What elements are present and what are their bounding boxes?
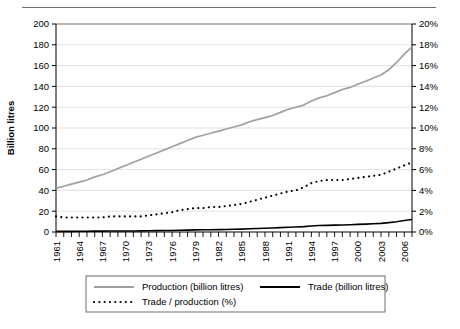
y-tick-label-right: 10% [419,122,439,133]
x-tick-label: 1988 [260,241,271,262]
x-tick-label: 1964 [74,241,85,262]
y-tick-label-right: 8% [419,143,433,154]
y-tick-label-left: 180 [33,39,49,50]
y-tick-label-right: 12% [419,102,439,113]
x-tick-label: 2003 [376,241,387,262]
y-tick-label-left: 100 [33,122,49,133]
legend-label-3: Trade / production (%) [142,296,236,307]
y-tick-label-right: 4% [419,185,433,196]
x-tick-label: 2006 [399,241,410,262]
x-tick-label: 1997 [329,241,340,262]
y-tick-label-right: 20% [419,18,439,29]
y-tick-label-right: 0% [419,226,433,237]
chart-container: 0204060801001201401601802000%2%4%6%8%10%… [0,0,460,329]
y-tick-label-right: 16% [419,60,439,71]
x-tick-label: 1991 [283,241,294,262]
y-tick-label-right: 18% [419,39,439,50]
series-line-1 [56,47,412,188]
x-tick-label: 1985 [236,241,247,262]
y-tick-label-right: 2% [419,206,433,217]
x-tick-label: 1967 [97,241,108,262]
y-tick-label-left: 140 [33,81,49,92]
y-tick-label-right: 6% [419,164,433,175]
y-tick-label-left: 60 [38,164,49,175]
x-tick-label: 1973 [143,241,154,262]
series-line-3 [56,162,412,217]
x-tick-label: 1979 [190,241,201,262]
y-tick-label-left: 40 [38,185,49,196]
y-tick-label-left: 80 [38,143,49,154]
y-tick-label-left: 120 [33,102,49,113]
y-tick-label-left: 0 [44,226,49,237]
chart-canvas: 0204060801001201401601802000%2%4%6%8%10%… [0,0,460,329]
y-tick-label-left: 200 [33,18,49,29]
x-tick-label: 1982 [213,241,224,262]
y-tick-label-left: 160 [33,60,49,71]
legend-label-1: Production (billion litres) [142,281,243,292]
x-tick-label: 2000 [352,241,363,262]
legend-label-2: Trade (billion litres) [308,281,388,292]
y-tick-label-right: 14% [419,81,439,92]
x-tick-label: 1994 [306,241,317,262]
y-tick-label-left: 20 [38,206,49,217]
x-tick-label: 1976 [167,241,178,262]
x-tick-label: 1961 [51,241,62,262]
y-axis-title: Billion litres [5,101,16,155]
series-line-2 [56,220,412,232]
x-tick-label: 1970 [120,241,131,262]
